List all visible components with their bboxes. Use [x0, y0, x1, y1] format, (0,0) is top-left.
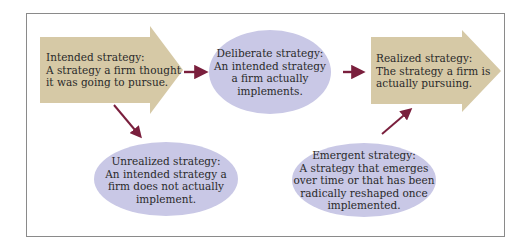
realized-desc-1: The strategy a firm is: [376, 65, 490, 78]
emergent-strategy-text: Emergent strategy: A strategy that emerg…: [290, 149, 438, 212]
strategy-diagram: [0, 0, 527, 251]
intended-desc-1: A strategy a firm thought: [46, 64, 181, 77]
intended-strategy-text: Intended strategy: A strategy a firm tho…: [46, 51, 181, 89]
emergent-desc-2: over time or that has been: [290, 174, 438, 187]
deliberate-desc-1: An intended strategy: [209, 60, 331, 73]
emergent-desc-1: A strategy that emerges: [290, 162, 438, 175]
unrealized-title: Unrealized strategy:: [94, 155, 238, 168]
emergent-desc-4: implemented.: [290, 199, 438, 212]
deliberate-title: Deliberate strategy:: [209, 47, 331, 60]
unrealized-desc-3: implement.: [94, 193, 238, 206]
unrealized-strategy-text: Unrealized strategy: An intended strateg…: [94, 155, 238, 205]
intended-desc-2: it was going to pursue.: [46, 76, 181, 89]
deliberate-strategy-text: Deliberate strategy: An intended strateg…: [209, 47, 331, 97]
emergent-desc-3: radically reshaped once: [290, 187, 438, 200]
emergent-title: Emergent strategy:: [290, 149, 438, 162]
unrealized-desc-1: An intended strategy a: [94, 168, 238, 181]
deliberate-desc-2: a firm actually: [209, 72, 331, 85]
realized-desc-2: actually pursuing.: [376, 77, 490, 90]
intended-title: Intended strategy:: [46, 51, 181, 64]
unrealized-desc-2: firm does not actually: [94, 180, 238, 193]
connector-intended-to-unrealized: [114, 105, 140, 136]
realized-title: Realized strategy:: [376, 52, 490, 65]
connector-emergent-to-realized: [382, 110, 410, 134]
realized-strategy-text: Realized strategy: The strategy a firm i…: [376, 52, 490, 90]
deliberate-desc-3: implements.: [209, 85, 331, 98]
